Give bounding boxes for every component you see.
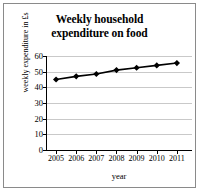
plot-inner: [46, 56, 192, 151]
data-point-marker: [93, 71, 99, 77]
data-point-marker: [134, 65, 140, 71]
x-axis-tick-label: 2006: [68, 154, 84, 163]
chart-card: Weekly household expenditure on food wee…: [3, 3, 196, 188]
x-axis-tick-label: 2007: [88, 154, 104, 163]
y-axis-tick-label: 50: [35, 68, 44, 77]
y-axis-tick-label: 40: [35, 83, 44, 92]
y-axis-tick-label: 30: [35, 99, 44, 108]
chart-title-line-2: expenditure on food: [4, 27, 195, 41]
x-axis-tick-label: 2010: [149, 154, 165, 163]
x-axis-tick-label: 2009: [129, 154, 145, 163]
x-axis-tick-label: 2008: [108, 154, 124, 163]
plot-area: [46, 56, 192, 151]
chart-title-line-1: Weekly household: [4, 13, 195, 27]
y-axis-tick-label: 60: [35, 52, 44, 61]
data-series: [46, 56, 192, 151]
data-point-marker: [113, 67, 119, 73]
series-markers: [53, 60, 180, 83]
data-point-marker: [174, 60, 180, 66]
data-point-marker: [73, 73, 79, 79]
x-axis-tick-label: 2005: [48, 154, 64, 163]
data-point-marker: [53, 76, 59, 82]
y-axis-tick-label: 20: [35, 115, 44, 124]
x-axis-title: year: [46, 171, 192, 181]
x-axis-tick-labels: 2005200620072008200920102011: [46, 154, 196, 166]
chart-screenshot: Weekly household expenditure on food wee…: [0, 0, 200, 192]
y-axis-tick-label: 10: [35, 130, 44, 139]
x-axis-tick-label: 2011: [169, 154, 185, 163]
data-point-marker: [154, 62, 160, 68]
chart-title: Weekly household expenditure on food: [4, 13, 195, 40]
y-axis-tick-labels: 0102030405060: [24, 56, 43, 151]
